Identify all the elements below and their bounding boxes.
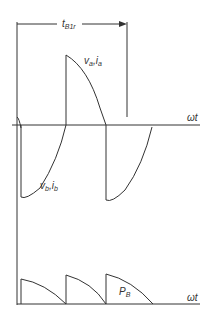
interval-label: tB1r (62, 18, 76, 30)
power-hump-3 (106, 274, 153, 304)
wave-a-0 (17, 117, 21, 128)
power-hump-1 (21, 279, 66, 304)
lower-axis-label: ωt (187, 292, 199, 303)
arrowhead-icon (119, 21, 127, 27)
power-label: PB (119, 286, 131, 298)
wave-a-label: va,ia (84, 55, 102, 67)
wave-b-2 (106, 125, 152, 201)
power-hump-2 (66, 275, 106, 304)
upper-axis-label: ωt (187, 112, 199, 123)
waveform-diagram: ωt tB1r va,ia vb,ib ωt PB (0, 0, 217, 316)
wave-b-label: vb,ib (40, 180, 58, 192)
